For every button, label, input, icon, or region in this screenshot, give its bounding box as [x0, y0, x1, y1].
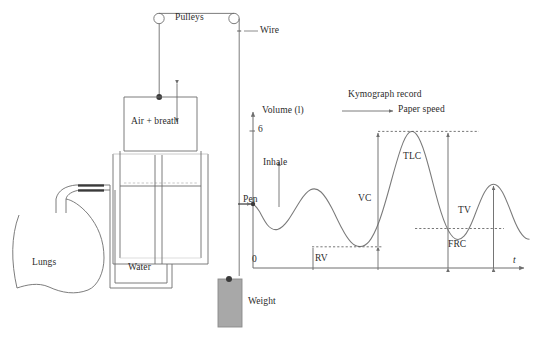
x-axis-label: t: [513, 256, 516, 266]
tv-label: TV: [458, 206, 471, 216]
pulley-left-icon: [154, 13, 164, 23]
chart-axes: [250, 112, 525, 268]
kymograph-record-label: Kymograph record: [348, 90, 422, 100]
y-tick-0-label: 0: [252, 255, 257, 265]
paper-speed-label: Paper speed: [398, 105, 445, 115]
lungs-label: Lungs: [32, 258, 56, 268]
water-label: Water: [128, 263, 151, 273]
weight-assembly: [218, 276, 242, 327]
figure-canvas: [0, 0, 533, 345]
bell-label: Air + breath: [131, 117, 179, 127]
wire-label: Wire: [260, 26, 279, 36]
tube-outer-return: [110, 185, 172, 288]
inhale-label: Inhale: [263, 158, 287, 168]
frc-label: FRC: [448, 240, 466, 250]
lungs-outline: [13, 199, 104, 293]
y-axis-label: Volume (l): [262, 106, 304, 116]
pen-label: Pen: [243, 195, 258, 205]
spirogram-curve: [253, 131, 530, 246]
rv-label: RV: [315, 254, 328, 264]
vc-label: VC: [358, 194, 371, 204]
y-tick-6-label: 6: [258, 125, 263, 135]
lungs-and-tubing: [13, 185, 172, 293]
tube-upper-outer: [56, 185, 110, 199]
pulley-right-icon: [229, 13, 239, 23]
mouthpiece-icon: [78, 186, 104, 191]
pulleys-label: Pulleys: [175, 13, 204, 23]
weight-block: [218, 279, 242, 327]
spirometer-figure: Pulleys Wire Air + breath Water Lungs We…: [0, 0, 533, 345]
weight-attachment-dot: [226, 276, 232, 282]
pulley-wire-assembly: [154, 13, 258, 276]
tlc-label: TLC: [403, 152, 421, 162]
weight-label: Weight: [248, 297, 276, 307]
